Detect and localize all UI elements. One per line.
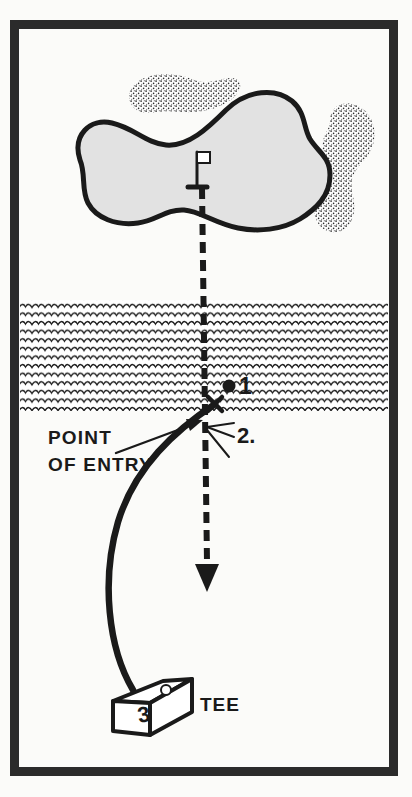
marker-2-label: 2. <box>237 423 255 448</box>
point-of-entry-line2: OF ENTRY <box>48 454 153 475</box>
ball-dot-1 <box>223 380 236 393</box>
diagram-canvas: 1 2. POINT OF ENTRY 3 TEE <box>0 0 412 797</box>
golf-hazard-diagram: 1 2. POINT OF ENTRY 3 TEE <box>0 0 412 797</box>
tee-label: TEE <box>200 694 240 715</box>
tee-marker-circle <box>161 685 171 695</box>
point-of-entry-line1: POINT <box>48 427 112 448</box>
flag-icon <box>197 152 210 163</box>
marker-1-label: 1 <box>239 373 252 399</box>
